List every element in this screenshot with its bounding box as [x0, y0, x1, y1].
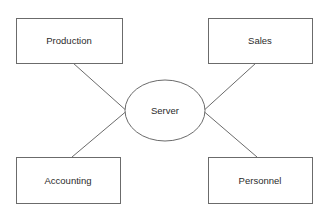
node-accounting[interactable]: Accounting: [17, 158, 121, 204]
node-server[interactable]: Server: [125, 80, 205, 141]
sales-label: Sales: [248, 35, 272, 46]
server-label: Server: [151, 105, 179, 116]
connector-personnel-to-server: [201, 109, 257, 157]
network-diagram: Production Sales Accounting Personnel Se…: [0, 0, 330, 219]
diagram-svg-surface: Production Sales Accounting Personnel Se…: [0, 0, 330, 219]
production-label: Production: [46, 35, 91, 46]
personnel-label: Personnel: [239, 175, 282, 186]
node-personnel[interactable]: Personnel: [209, 158, 313, 204]
node-production[interactable]: Production: [17, 19, 123, 64]
connector-accounting-to-server: [72, 109, 129, 157]
node-sales[interactable]: Sales: [209, 19, 313, 64]
connector-production-to-server: [73, 63, 129, 113]
accounting-label: Accounting: [44, 175, 91, 186]
connector-sales-to-server: [201, 63, 256, 113]
